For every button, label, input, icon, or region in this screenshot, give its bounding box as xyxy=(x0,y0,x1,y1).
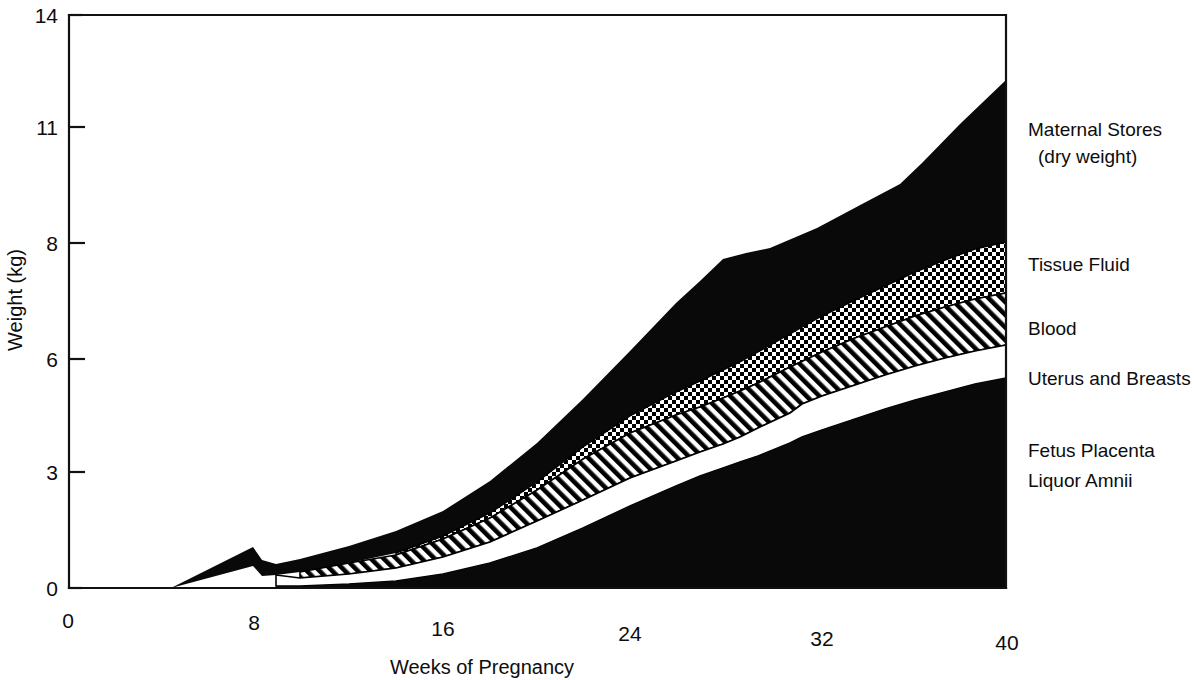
y-tick-label-8: 8 xyxy=(46,232,58,255)
y-axis-title: Weight (kg) xyxy=(4,249,26,351)
legend-label-fetus-line2: Liquor Amnii xyxy=(1028,470,1133,491)
x-tick-label-40: 40 xyxy=(995,631,1018,654)
x-tick-label-8: 8 xyxy=(248,611,260,634)
y-tick-label-11: 11 xyxy=(36,116,58,139)
x-tick-label-16: 16 xyxy=(431,617,454,640)
y-tick-label-14: 14 xyxy=(35,4,59,27)
stacked-area-chart: 14 11 8 6 3 0 Weight (kg) 0 8 16 24 32 4… xyxy=(0,0,1196,680)
x-tick-label-24: 24 xyxy=(618,622,642,645)
legend-label-maternal-stores-line2: (dry weight) xyxy=(1038,146,1137,167)
x-tick-label-32: 32 xyxy=(810,627,833,650)
legend-label-tissue-fluid: Tissue Fluid xyxy=(1028,254,1130,275)
legend-label-uterus-breasts: Uterus and Breasts xyxy=(1028,368,1191,389)
x-tick-label-0: 0 xyxy=(62,609,74,632)
legend-label-fetus-line1: Fetus Placenta xyxy=(1028,440,1155,461)
y-tick-label-3: 3 xyxy=(46,461,58,484)
x-axis-title: Weeks of Pregnancy xyxy=(390,656,574,678)
chart-figure: 14 11 8 6 3 0 Weight (kg) 0 8 16 24 32 4… xyxy=(0,0,1196,680)
legend-label-maternal-stores-line1: Maternal Stores xyxy=(1028,119,1162,140)
y-tick-label-6: 6 xyxy=(46,348,58,371)
legend-label-blood: Blood xyxy=(1028,318,1077,339)
y-tick-label-0: 0 xyxy=(46,577,58,600)
